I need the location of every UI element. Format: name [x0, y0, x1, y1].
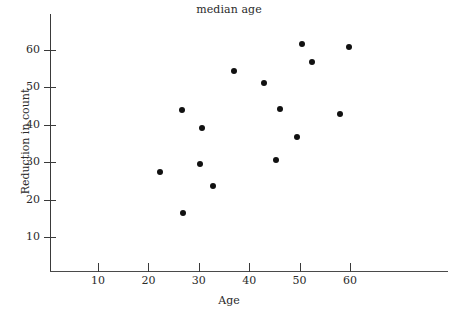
data-point	[210, 183, 216, 189]
data-point	[179, 107, 185, 113]
x-axis-tick-mark	[350, 263, 351, 272]
y-axis-line	[50, 14, 51, 272]
data-point	[261, 80, 267, 86]
data-point	[273, 157, 279, 163]
x-axis-title: Age	[0, 294, 458, 307]
data-point	[231, 68, 237, 74]
x-axis-tick-label: 40	[234, 275, 264, 287]
data-point	[157, 169, 163, 175]
x-axis-tick-mark	[300, 263, 301, 272]
y-axis-tick-mark	[44, 50, 56, 51]
y-axis-tick-mark	[44, 125, 56, 126]
data-point	[309, 59, 315, 65]
y-axis-title: Reduction in count	[19, 57, 32, 227]
scatter-plot-figure: median age 102030405060 102030405060 Red…	[0, 0, 458, 317]
y-axis-tick-mark	[44, 87, 56, 88]
data-point	[294, 134, 300, 140]
data-point	[197, 161, 203, 167]
x-axis-tick-mark	[249, 263, 250, 272]
x-axis-tick-label: 10	[83, 275, 113, 287]
x-axis-tick-mark	[148, 263, 149, 272]
x-axis-tick-label: 60	[335, 275, 365, 287]
data-point	[180, 210, 186, 216]
y-axis-tick-label: 60	[10, 44, 40, 55]
x-axis-tick-mark	[199, 263, 200, 272]
plot-area	[0, 0, 458, 317]
y-axis-tick-label: 10	[10, 231, 40, 242]
y-axis-tick-mark	[44, 200, 56, 201]
x-axis-tick-mark	[98, 263, 99, 272]
y-axis-tick-mark	[44, 237, 56, 238]
chart-title: median age	[0, 3, 458, 16]
x-axis-tick-label: 50	[285, 275, 315, 287]
y-axis-tick-mark	[44, 162, 56, 163]
x-axis-tick-label: 30	[184, 275, 214, 287]
data-point	[277, 106, 283, 112]
data-point	[199, 125, 205, 131]
data-point	[346, 44, 352, 50]
data-point	[299, 41, 305, 47]
data-point	[337, 111, 343, 117]
x-axis-tick-label: 20	[133, 275, 163, 287]
